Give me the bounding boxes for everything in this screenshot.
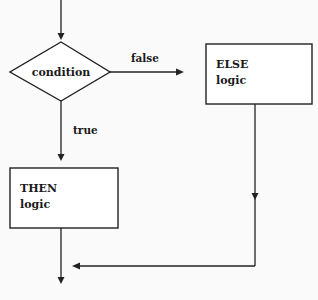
merge-arrowhead-icon <box>72 263 80 270</box>
else-title: ELSE <box>216 58 248 71</box>
condition-node[interactable]: condition <box>10 42 110 101</box>
exit-arrowhead-icon <box>58 277 65 284</box>
true-label: true <box>73 124 98 136</box>
false-edge: false <box>110 52 184 76</box>
flowchart: condition false ELSE logic true THEN log… <box>0 0 318 300</box>
false-label: false <box>131 52 159 64</box>
false-arrowhead-icon <box>176 69 184 76</box>
entry-arrowhead-icon <box>58 33 65 40</box>
else-body: logic <box>216 74 246 87</box>
entry-edge <box>58 0 65 40</box>
then-title: THEN <box>20 182 57 195</box>
else-down-arrowhead-icon <box>252 193 259 200</box>
true-arrowhead-icon <box>58 154 65 161</box>
then-node[interactable]: THEN logic <box>10 168 118 228</box>
then-body: logic <box>20 198 50 211</box>
exit-edge <box>58 228 65 284</box>
condition-label: condition <box>32 66 91 79</box>
true-edge: true <box>58 101 99 161</box>
else-node[interactable]: ELSE logic <box>206 44 312 104</box>
